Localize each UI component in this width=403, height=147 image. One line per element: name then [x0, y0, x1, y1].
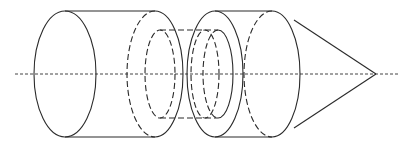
exploded-cylinder-diagram	[0, 0, 403, 147]
right-cylinder	[187, 11, 300, 137]
cone-upper-edge	[294, 20, 376, 74]
cone-lower-edge	[294, 74, 376, 128]
inner-tube	[145, 30, 233, 118]
